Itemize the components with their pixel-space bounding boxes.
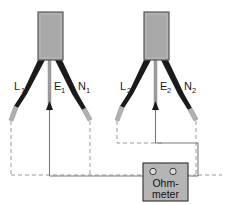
left-plug-group <box>9 12 92 121</box>
label-L2: L 2 <box>120 80 131 95</box>
plug-continuity-diagram: Ohm- meter L 1 E 1 N 1 L 2 E 2 <box>0 0 232 205</box>
label-N2-subscript: 2 <box>192 86 196 95</box>
label-E2: E 2 <box>160 80 171 95</box>
dashed-wire-N2 <box>196 121 222 175</box>
right-plug-group <box>115 12 198 121</box>
diagram-canvas: Ohm- meter L 1 E 1 N 1 L 2 E 2 <box>0 0 232 205</box>
label-N1-subscript: 1 <box>86 86 90 95</box>
dashed-wiring-group <box>11 121 222 175</box>
label-E1: E 1 <box>54 80 65 95</box>
label-N2: N 2 <box>184 80 196 95</box>
ohmmeter-group[interactable]: Ohm- meter <box>143 163 188 201</box>
label-L1: L 1 <box>14 80 25 95</box>
ohmmeter-terminal-left-socket[interactable] <box>150 168 156 174</box>
dashed-wire-L2 <box>117 121 163 143</box>
label-N2-base: N <box>184 80 192 92</box>
label-N1-base: N <box>78 80 86 92</box>
left-plug-body <box>38 12 63 60</box>
conductor-labels-group: L 1 E 1 N 1 L 2 E 2 N 2 <box>14 80 196 95</box>
left-plug-neutral-wire-tip <box>82 108 92 121</box>
label-E1-subscript: 1 <box>61 86 65 95</box>
right-earth-probe-arrow <box>152 101 159 110</box>
label-L1-base: L <box>14 80 20 92</box>
label-L2-base: L <box>120 80 126 92</box>
right-plug-live-wire-tip <box>115 106 124 121</box>
label-L1-subscript: 1 <box>21 86 25 95</box>
left-earth-probe-arrow <box>46 101 53 110</box>
label-E2-subscript: 2 <box>167 86 171 95</box>
ohmmeter-label-line2: meter <box>152 188 179 200</box>
right-plug-body <box>144 12 169 60</box>
left-plug-live-wire-tip <box>9 106 18 121</box>
ohmmeter-terminal-right-socket[interactable] <box>170 168 176 174</box>
label-L2-subscript: 2 <box>127 86 131 95</box>
right-plug-neutral-wire-tip <box>188 108 198 121</box>
label-N1: N 1 <box>78 80 90 95</box>
